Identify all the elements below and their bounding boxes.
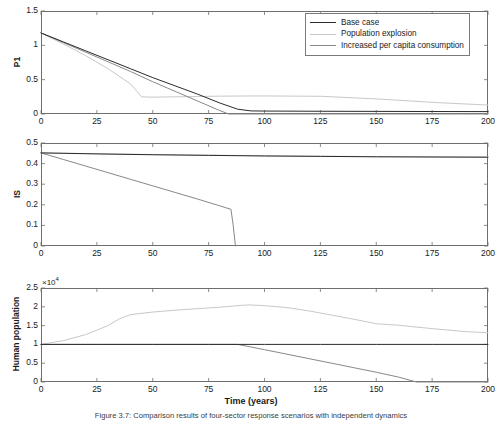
x-tick-label: 100 (245, 117, 285, 126)
legend: Base case Population explosion Increased… (305, 13, 470, 56)
x-tick-label: 150 (356, 249, 396, 258)
panel-3-y-axis-label: Human population (11, 267, 21, 401)
y-tick-label: 0.5 (26, 138, 38, 147)
x-tick-label: 0 (21, 249, 61, 258)
y-tick-label: 1 (33, 339, 38, 348)
x-tick-label: 0 (21, 385, 61, 394)
x-tick-label: 75 (189, 249, 229, 258)
x-tick-label: 50 (133, 117, 173, 126)
panel-2-y-axis-label: IS (11, 122, 21, 265)
x-tick-label: 25 (77, 249, 117, 258)
plot-panel-human-population (41, 288, 488, 382)
legend-entry-population-explosion: Population explosion (310, 29, 464, 41)
legend-line-population-explosion (310, 34, 336, 35)
y-tick-label: 2 (33, 302, 38, 311)
x-tick-label: 125 (300, 249, 340, 258)
series-increased-per-capita-consumption (41, 344, 488, 382)
x-tick-label: 50 (133, 385, 173, 394)
x-tick-label: 125 (300, 385, 340, 394)
y-tick-label: 1.5 (26, 6, 38, 15)
legend-label-base-case: Base case (341, 19, 379, 27)
panel-2-curves (41, 143, 488, 246)
x-tick-label: 50 (133, 249, 173, 258)
y-tick-label: 0.2 (26, 200, 38, 209)
legend-label-population-explosion: Population explosion (341, 30, 417, 38)
figure-container: P1 00.511.5 0255075100125150175200 Base … (0, 0, 502, 421)
x-tick-label: 175 (412, 385, 452, 394)
x-tick-label: 200 (468, 385, 502, 394)
panel-3-curves (41, 288, 488, 382)
y-tick-label: 0.5 (26, 358, 38, 367)
multiplier-base: ×10 (42, 278, 56, 287)
figure-caption: Figure 3.7: Comparison results of four-s… (0, 411, 502, 420)
x-tick-label: 150 (356, 117, 396, 126)
legend-entry-increased-consumption: Increased per capita consumption (310, 40, 464, 52)
y-tick-label: 1 (33, 40, 38, 49)
x-tick-label: 0 (21, 117, 61, 126)
y-tick-label: 0.1 (26, 220, 38, 229)
x-tick-label: 75 (189, 385, 229, 394)
x-tick-label: 200 (468, 117, 502, 126)
x-tick-label: 125 (300, 117, 340, 126)
multiplier-exponent: 4 (56, 276, 59, 282)
y-tick-label: 2.5 (26, 283, 38, 292)
legend-line-increased-consumption (310, 45, 336, 46)
x-tick-label: 100 (245, 385, 285, 394)
x-tick-label: 100 (245, 249, 285, 258)
y-tick-label: 0.4 (26, 159, 38, 168)
panel-1-y-axis-label: P1 (11, 0, 21, 133)
x-tick-label: 175 (412, 249, 452, 258)
y-tick-label: 1.5 (26, 321, 38, 330)
panel-3-axis-multiplier: ×104 (42, 276, 59, 287)
x-tick-label: 175 (412, 117, 452, 126)
y-tick-label: 0.3 (26, 179, 38, 188)
x-tick-label: 25 (77, 385, 117, 394)
plot-panel-is (41, 143, 488, 246)
legend-entry-base-case: Base case (310, 17, 464, 29)
x-axis-title: Time (years) (0, 396, 502, 406)
x-tick-label: 25 (77, 117, 117, 126)
x-tick-label: 200 (468, 249, 502, 258)
x-tick-label: 75 (189, 117, 229, 126)
series-population-explosion (41, 305, 488, 344)
series-increased-per-capita-consumption (41, 153, 235, 246)
y-tick-label: 0.5 (26, 75, 38, 84)
legend-label-increased-consumption: Increased per capita consumption (341, 42, 464, 50)
legend-line-base-case (310, 22, 336, 23)
x-tick-label: 150 (356, 385, 396, 394)
